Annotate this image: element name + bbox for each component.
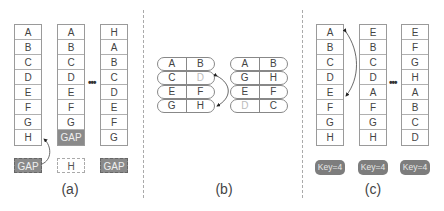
move-arrow-icon: [42, 139, 50, 164]
swap-arrow-icon: [346, 32, 357, 96]
swap-arrow-icon: [217, 76, 228, 106]
arrows-overlay: [0, 0, 444, 211]
